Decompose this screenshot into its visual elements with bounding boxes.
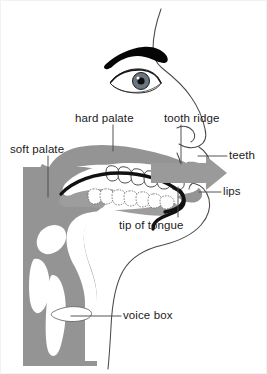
label-lips: lips — [223, 186, 241, 198]
label-hard-palate: hard palate — [75, 113, 134, 125]
label-tooth-ridge: tooth ridge — [164, 113, 219, 125]
label-voice-box: voice box — [123, 310, 172, 322]
label-teeth: teeth — [229, 150, 255, 162]
label-tip-of-tongue: tip of tongue — [119, 220, 184, 232]
eye-highlight — [137, 77, 140, 80]
eyebrow — [104, 47, 168, 69]
eye-group — [104, 47, 168, 93]
label-soft-palate: soft palate — [10, 144, 64, 156]
diagram-canvas: soft palate hard palate tooth ridge teet… — [0, 0, 267, 374]
nostril-outline — [177, 126, 195, 142]
